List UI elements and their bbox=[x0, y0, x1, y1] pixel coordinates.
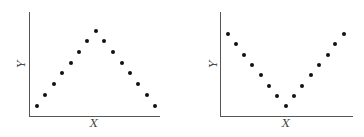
y-axis-label: Y bbox=[207, 60, 220, 67]
data-point bbox=[333, 42, 337, 46]
data-point bbox=[128, 71, 132, 75]
data-point bbox=[309, 73, 313, 77]
data-point bbox=[292, 94, 296, 98]
data-point bbox=[35, 104, 39, 108]
data-point bbox=[153, 104, 157, 108]
data-point bbox=[136, 82, 140, 86]
data-point bbox=[317, 63, 321, 67]
data-point bbox=[259, 73, 263, 77]
y-axis-line bbox=[220, 12, 221, 116]
y-axis-label: Y bbox=[15, 60, 28, 67]
data-point bbox=[234, 42, 238, 46]
data-point bbox=[145, 93, 149, 97]
data-point bbox=[94, 29, 98, 33]
data-point bbox=[226, 32, 230, 36]
data-point bbox=[43, 93, 47, 97]
data-point bbox=[69, 61, 73, 65]
data-point bbox=[111, 50, 115, 54]
data-point bbox=[77, 50, 81, 54]
data-point bbox=[326, 53, 330, 57]
data-point bbox=[85, 39, 89, 43]
data-point bbox=[120, 61, 124, 65]
data-point bbox=[102, 39, 106, 43]
data-point bbox=[300, 84, 304, 88]
data-point bbox=[52, 82, 56, 86]
x-axis-label: X bbox=[90, 117, 98, 130]
data-point bbox=[242, 53, 246, 57]
y-axis-line bbox=[29, 12, 30, 116]
data-point bbox=[60, 71, 64, 75]
data-point bbox=[250, 63, 254, 67]
data-point bbox=[284, 104, 288, 108]
data-point bbox=[342, 32, 346, 36]
data-point bbox=[267, 84, 271, 88]
data-point bbox=[275, 94, 279, 98]
x-axis-label: X bbox=[282, 117, 290, 130]
